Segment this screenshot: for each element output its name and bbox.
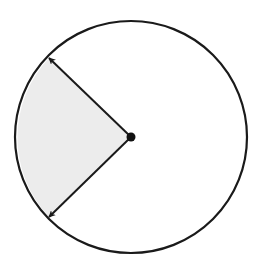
center-point [127, 133, 136, 142]
circle-sector-diagram [0, 0, 260, 259]
